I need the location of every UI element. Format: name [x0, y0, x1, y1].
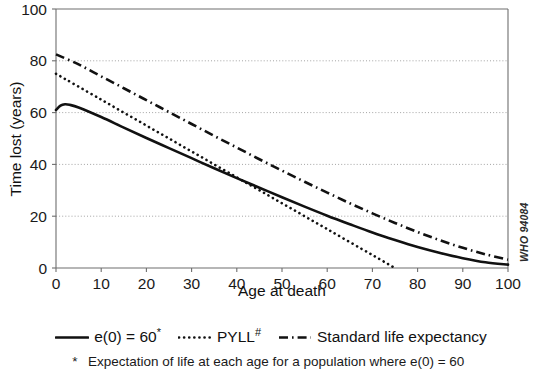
x-tick-label-90: 90: [454, 275, 472, 292]
chart-page: 0102030405060708090100 020406080100 Age …: [0, 0, 542, 369]
y-tick-label-60: 60: [30, 104, 48, 121]
legend-swatch-dashdot: [278, 331, 312, 343]
x-tick-label-30: 30: [183, 275, 201, 292]
legend-superscript-0: *: [157, 326, 161, 338]
legend-superscript-1: #: [255, 326, 261, 338]
legend-item-2[interactable]: Standard life expectancy: [278, 329, 487, 345]
legend-swatch-dotted: [178, 331, 212, 343]
chart-legend: e(0) = 60*PYLL#Standard life expectancy: [0, 326, 542, 348]
footnote-symbol-0: *: [70, 354, 80, 369]
x-axis-title: Age at death: [238, 282, 326, 299]
footnote-text-0: Expectation of life at each age for a po…: [88, 354, 464, 369]
x-tick-label-70: 70: [364, 275, 382, 292]
y-tick-label-40: 40: [30, 156, 48, 173]
y-tick-label-0: 0: [38, 260, 47, 277]
footnote-0: *Expectation of life at each age for a p…: [0, 354, 542, 369]
plot-frame: [56, 9, 508, 268]
x-tick-label-20: 20: [138, 275, 156, 292]
legend-label-0: e(0) = 60*: [94, 329, 161, 345]
x-tick-label-100: 100: [495, 275, 521, 292]
x-tick-label-80: 80: [409, 275, 427, 292]
y-tick-label-20: 20: [30, 208, 48, 225]
time-lost-by-age-line-chart: 0102030405060708090100 020406080100 Age …: [0, 0, 542, 300]
x-tick-label-0: 0: [52, 275, 61, 292]
legend-item-1[interactable]: PYLL#: [178, 329, 261, 345]
legend-label-2: Standard life expectancy: [317, 329, 487, 345]
y-axis-ticks: 020406080100: [21, 1, 56, 277]
legend-item-0[interactable]: e(0) = 60*: [55, 329, 161, 345]
y-tick-label-80: 80: [30, 52, 48, 69]
chart-figure: 0102030405060708090100 020406080100 Age …: [0, 0, 542, 300]
who-source-code: WHO 94084: [518, 202, 530, 262]
footnote-area: *Expectation of life at each age for a p…: [0, 354, 542, 369]
legend-swatch-solid: [55, 331, 89, 343]
x-tick-label-10: 10: [93, 275, 111, 292]
plot-background: [56, 9, 508, 268]
y-axis-title: Time lost (years): [7, 82, 24, 197]
y-tick-label-100: 100: [21, 1, 47, 18]
legend-label-1: PYLL#: [217, 329, 261, 345]
